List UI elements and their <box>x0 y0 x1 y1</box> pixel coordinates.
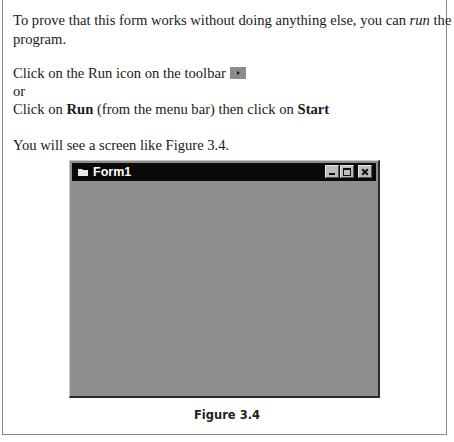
paragraph-figure-ref: You will see a screen like Figure 3.4. <box>13 136 229 155</box>
run-menu-label: Run <box>67 101 94 117</box>
run-emphasis: run <box>410 12 430 28</box>
intro-text-end: the <box>430 12 451 28</box>
start-item-label: Start <box>298 101 330 117</box>
instruction-toolbar: Click on the Run icon on the toolbar <box>13 64 246 83</box>
maximize-icon[interactable] <box>340 165 354 178</box>
run-icon <box>230 67 246 79</box>
or-text: or <box>13 82 25 101</box>
form-icon <box>78 168 88 176</box>
instruction-menu: Click on Run (from the menu bar) then cl… <box>13 100 329 119</box>
instruction-toolbar-text: Click on the Run icon on the toolbar <box>13 65 226 81</box>
close-icon[interactable] <box>358 165 372 178</box>
window-titlebar[interactable]: Form1 <box>72 163 376 181</box>
intro-text: To prove that this form works without do… <box>13 12 410 28</box>
minimize-icon[interactable] <box>325 165 339 178</box>
window-title: Form1 <box>93 164 131 180</box>
form1-window: Form1 <box>69 160 380 398</box>
instruction-menu-prefix: Click on <box>13 101 67 117</box>
figure-caption: Figure 3.4 <box>0 408 454 422</box>
form-client-area <box>72 182 377 395</box>
instruction-menu-middle: (from the menu bar) then click on <box>93 101 297 117</box>
paragraph-intro: To prove that this form works without do… <box>13 11 451 30</box>
paragraph-intro-line2: program. <box>13 30 66 49</box>
